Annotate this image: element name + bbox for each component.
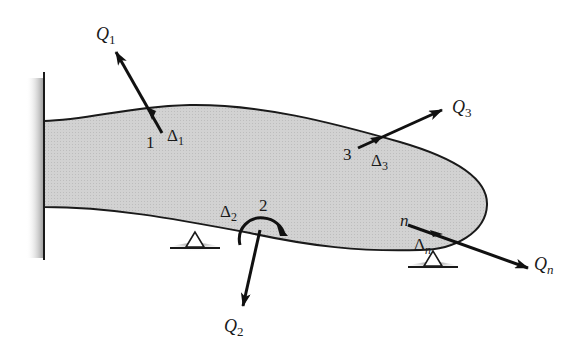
coordinate-number-1: 1 [146,133,155,152]
force-arrow-q2 [243,230,260,306]
wall-hatch-shadow [26,78,44,258]
force-label-q2: Q2 [224,316,244,339]
fixed-wall-support [26,72,44,260]
structure-diagram: 1 Δ1 Q1 3 Δ3 Q3 Δ2 2 Q2 n Δn Qn [0,0,588,355]
coordinate-number-n: n [400,211,409,230]
force-label-qn: Qn [534,254,554,277]
roller-support-middle [169,232,221,257]
coordinate-number-2: 2 [259,196,268,215]
roller-support-right [407,251,459,276]
coordinate-number-3: 3 [343,145,352,164]
force-label-q3: Q3 [452,97,472,120]
force-label-q1: Q1 [96,24,116,47]
